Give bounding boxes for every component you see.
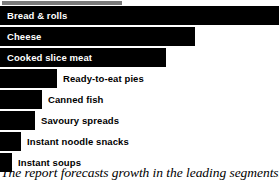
- bar-row[interactable]: Canned fish: [0, 90, 279, 109]
- bar[interactable]: [0, 111, 35, 130]
- bar-row[interactable]: Bread & rolls: [0, 6, 279, 25]
- bar-label: Ready-to-eat pies: [63, 69, 144, 88]
- bar[interactable]: [0, 132, 21, 151]
- bar-label: Cooked slice meat: [7, 48, 92, 67]
- bar[interactable]: [0, 90, 42, 109]
- bar-label: Cheese: [7, 27, 41, 46]
- bar-row[interactable]: Ready-to-eat pies: [0, 69, 279, 88]
- bar-label: Savoury spreads: [41, 111, 119, 130]
- bar-chart-figure: Bread & rollsCheeseCooked slice meatRead…: [0, 0, 279, 182]
- bar-row[interactable]: Cooked slice meat: [0, 48, 279, 67]
- bar[interactable]: [0, 69, 57, 88]
- bar-label: Bread & rolls: [7, 6, 67, 25]
- bar-row[interactable]: Cheese: [0, 27, 279, 46]
- horizontal-bar-chart: Bread & rollsCheeseCooked slice meatRead…: [0, 6, 279, 160]
- figure-caption: The report forecasts growth in the leadi…: [1, 165, 279, 181]
- bar-label: Canned fish: [48, 90, 103, 109]
- title-smudge: [2, 1, 122, 5]
- bar-label: Instant noodle snacks: [27, 132, 129, 151]
- bar-row[interactable]: Instant noodle snacks: [0, 132, 279, 151]
- bar-row[interactable]: Savoury spreads: [0, 111, 279, 130]
